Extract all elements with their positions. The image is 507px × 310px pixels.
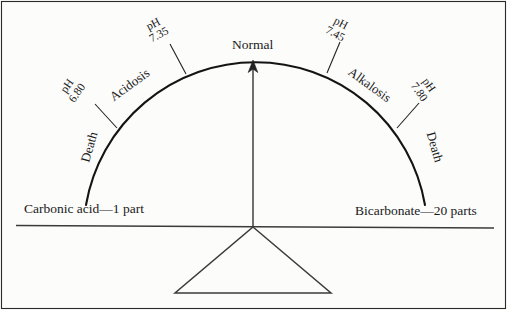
acid-base-seesaw-figure: Normal pH 6.80 pH 7.35 pH 7.45 pH 7.80 A… — [0, 0, 507, 310]
normal-label: Normal — [232, 38, 273, 53]
ph-735-leader-line — [170, 44, 186, 74]
ph-745-leader-line — [327, 42, 340, 73]
ph-780-leader-line — [397, 103, 419, 128]
balance-beam — [16, 226, 494, 229]
carbonic-acid-label: Carbonic acid—1 part — [24, 202, 144, 217]
bicarbonate-label: Bicarbonate—20 parts — [355, 204, 477, 219]
ph-680-leader-line — [95, 104, 117, 128]
fulcrum-triangle — [175, 227, 331, 293]
